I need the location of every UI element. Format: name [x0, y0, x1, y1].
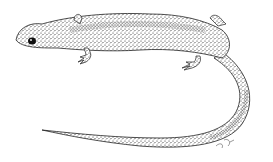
hind-leg-lower: [182, 56, 201, 70]
body: [16, 13, 230, 58]
eye: [28, 38, 36, 45]
front-leg-lower: [78, 48, 91, 64]
salamander-illustration: salamander: [0, 0, 273, 162]
hind-leg-upper: [210, 15, 226, 26]
